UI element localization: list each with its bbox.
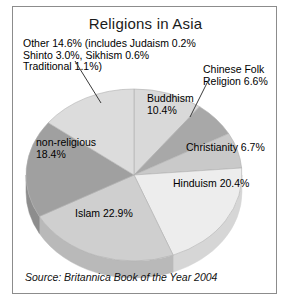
chart-source: Source: Britannica Book of the Year 2004	[25, 271, 217, 283]
slice-label-christianity: Christianity 6.7%	[186, 142, 265, 154]
slice-label-non-religious: non-religious 18.4%	[36, 137, 96, 161]
chart-frame: Religions in Asia Other 14.6% (includes …	[12, 6, 277, 294]
leader-line-other	[75, 61, 101, 103]
slice-label-islam: Islam 22.9%	[75, 208, 133, 220]
slice-label-buddhism: Buddhism 10.4%	[147, 93, 194, 117]
slice-label-hinduism: Hinduism 20.4%	[173, 178, 249, 190]
